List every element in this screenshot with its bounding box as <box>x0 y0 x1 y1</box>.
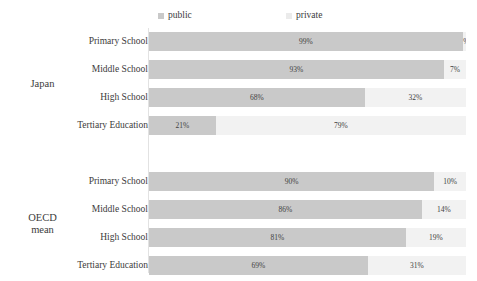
bar-row: 81%19% <box>149 228 466 247</box>
bar-value-public: 86% <box>278 206 292 214</box>
bar-value-private: 31% <box>410 262 424 270</box>
group-label: Japan <box>10 78 75 90</box>
bar-segment-public: 81% <box>149 228 406 247</box>
bar-value-public: 81% <box>271 234 285 242</box>
bar-row: 90%10% <box>149 172 466 191</box>
bar-segment-public: 69% <box>149 256 368 275</box>
category-axis-labels: Primary SchoolMiddle SchoolHigh SchoolTe… <box>5 28 148 273</box>
bar-value-private: 19% <box>429 234 443 242</box>
category-label: Tertiary Education <box>0 116 148 135</box>
legend-swatch-private-icon <box>286 13 292 19</box>
bar-row: 69%31% <box>149 256 466 275</box>
bar-segment-public: 93% <box>149 60 444 79</box>
bar-value-private: 7% <box>450 66 460 74</box>
bar-row: 21%79% <box>149 116 466 135</box>
bar-segment-public: 99% <box>149 32 463 51</box>
bar-segment-public: 68% <box>149 88 365 107</box>
bar-value-public: 21% <box>175 122 189 130</box>
bar-value-private: 14% <box>437 206 451 214</box>
bar-segment-public: 21% <box>149 116 216 135</box>
legend-item-public: public <box>158 11 192 21</box>
bar-segment-private: 32% <box>365 88 466 107</box>
bar-value-public: 99% <box>299 38 313 46</box>
bar-row: 99%1% <box>149 32 466 51</box>
bar-value-private: 1% <box>463 38 466 46</box>
group-label-line: Japan <box>10 78 75 90</box>
bar-segment-private: 14% <box>422 200 466 219</box>
bar-value-private: 79% <box>334 122 348 130</box>
bar-segment-public: 86% <box>149 200 422 219</box>
bar-value-public: 90% <box>285 178 299 186</box>
bar-row: 68%32% <box>149 88 466 107</box>
bar-value-public: 93% <box>290 66 304 74</box>
chart-legend: public private <box>148 9 465 25</box>
category-label: Middle School <box>0 60 148 79</box>
category-label: Primary School <box>0 172 148 191</box>
category-label: Tertiary Education <box>0 256 148 275</box>
bar-row: 86%14% <box>149 200 466 219</box>
bar-row: 93%7% <box>149 60 466 79</box>
bar-value-private: 10% <box>443 178 457 186</box>
bar-segment-private: 31% <box>368 256 466 275</box>
bar-segment-private: 7% <box>444 60 466 79</box>
group-label-line: OECD <box>10 212 75 224</box>
legend-swatch-public-icon <box>158 13 164 19</box>
group-label-line: mean <box>10 224 75 236</box>
stacked-bar-chart: public private 99%1%93%7%68%32%21%79%90%… <box>0 0 477 281</box>
bar-value-public: 69% <box>251 262 265 270</box>
bar-segment-private: 1% <box>463 32 466 51</box>
bar-value-public: 68% <box>250 94 264 102</box>
legend-item-private: private <box>286 11 322 21</box>
bar-value-private: 32% <box>408 94 422 102</box>
legend-label-public: public <box>168 11 192 21</box>
category-label: High School <box>0 88 148 107</box>
bar-segment-private: 10% <box>434 172 466 191</box>
bar-segment-private: 19% <box>406 228 466 247</box>
bar-segment-private: 79% <box>216 116 466 135</box>
legend-label-private: private <box>296 11 322 21</box>
category-label: Primary School <box>0 32 148 51</box>
bar-segment-public: 90% <box>149 172 434 191</box>
plot-area: 99%1%93%7%68%32%21%79%90%10%86%14%81%19%… <box>148 28 466 273</box>
group-label: OECDmean <box>10 212 75 236</box>
